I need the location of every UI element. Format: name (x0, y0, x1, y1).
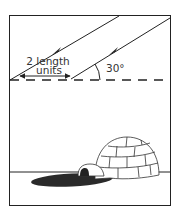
sun-ray-left (10, 16, 119, 80)
angle-arc (95, 64, 100, 80)
igloo (78, 137, 159, 179)
angle-label: 30° (106, 62, 125, 74)
sun-rays-igloo-diagram: 2 length units 30° (0, 0, 178, 215)
distance-label-line2: units (36, 64, 62, 76)
